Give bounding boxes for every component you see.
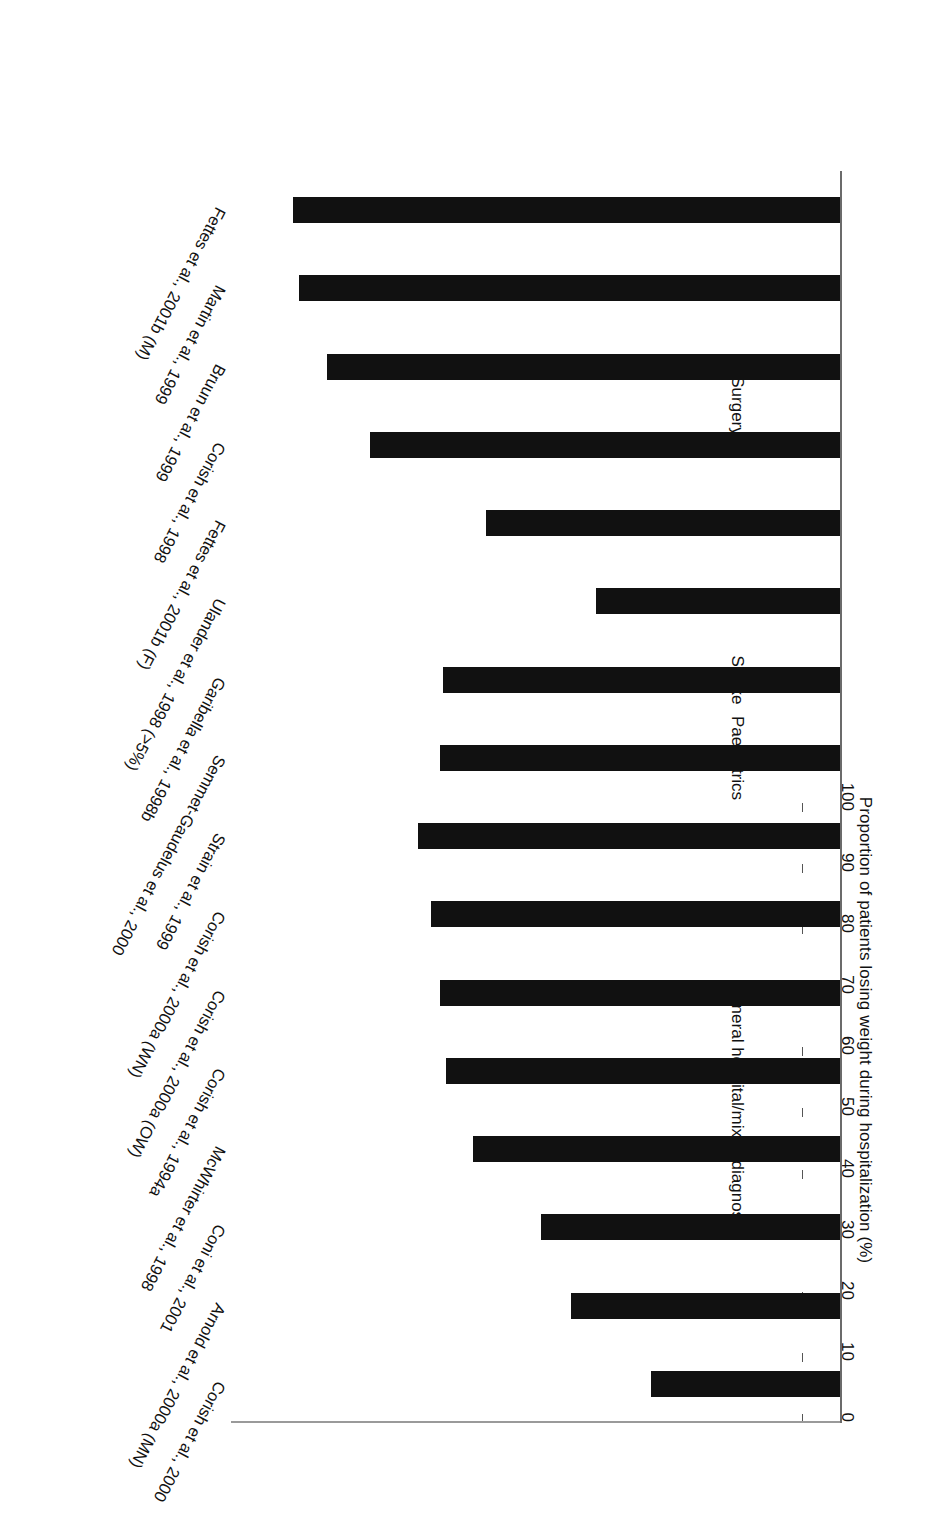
bar xyxy=(651,1371,840,1397)
bar xyxy=(418,823,840,849)
bar xyxy=(486,510,840,536)
value-axis-tick-strip: 0102030405060708090100 xyxy=(843,171,903,1423)
bar xyxy=(431,901,840,927)
bar xyxy=(440,980,840,1006)
category-tick-label: Fettes et al., 2001b (F) xyxy=(134,517,229,673)
bar xyxy=(299,275,840,301)
figure-rotator: Proportion of patients losing weight dur… xyxy=(0,0,943,1515)
bar-chart: Proportion of patients losing weight dur… xyxy=(0,0,943,1515)
bar xyxy=(571,1293,840,1319)
value-axis-line xyxy=(840,171,842,1423)
category-label-strip: Corish et al., 2000Arnold et al., 2000a … xyxy=(0,171,231,1423)
plot-area xyxy=(231,171,842,1423)
bar xyxy=(446,1058,840,1084)
bar xyxy=(473,1136,840,1162)
category-tick-label: Corish et al., 1994a xyxy=(145,1065,229,1200)
bar xyxy=(596,588,840,614)
bar xyxy=(293,197,840,223)
bar xyxy=(327,354,840,380)
bar xyxy=(370,432,840,458)
category-axis-line xyxy=(231,1421,842,1423)
bar xyxy=(541,1214,840,1240)
bar xyxy=(443,667,840,693)
category-tick-label: McWhirter et al., 1998 xyxy=(137,1143,230,1294)
bar xyxy=(440,745,840,771)
